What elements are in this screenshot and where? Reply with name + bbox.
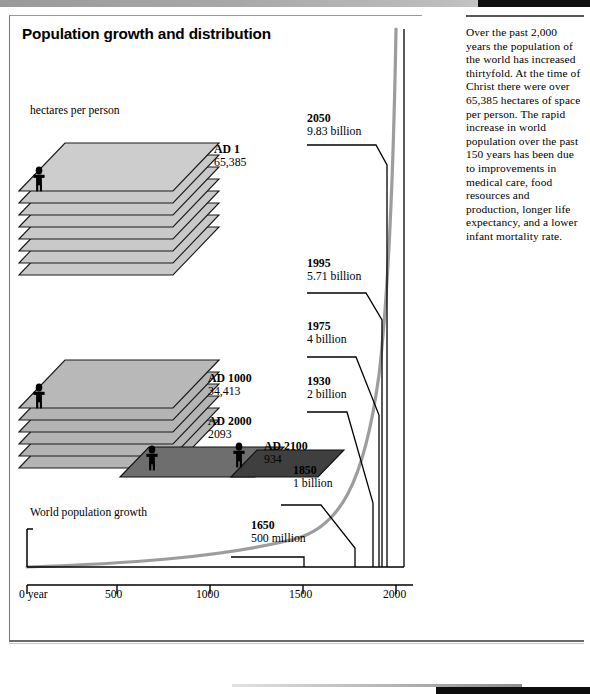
sidebar-top-rule	[466, 15, 584, 17]
panel-bottom-rule-shadow	[9, 643, 584, 644]
x-axis-ruler	[27, 585, 413, 594]
slab-label-ad1000-value: 34,413	[208, 385, 252, 399]
step-label-2050-value: 9.83 billion	[307, 125, 361, 139]
step-label-1975: 1975 4 billion	[307, 320, 347, 347]
x-tick-label-1500: 1500	[289, 588, 312, 601]
step-label-1930-value: 2 billion	[307, 388, 347, 402]
sidebar-paragraph: Over the past 2,000 years the population…	[466, 26, 583, 244]
step-label-2050: 2050 9.83 billion	[307, 112, 361, 139]
slab-label-ad1000: AD 1000 34,413	[208, 372, 252, 399]
slab-label-ad1-value: 65,385	[214, 156, 246, 170]
sidebar-text-column: Over the past 2,000 years the population…	[466, 26, 583, 244]
x-tick-label-2000: 2000	[383, 588, 406, 601]
x-tick-label-1000: 1000	[196, 588, 219, 601]
step-leader-lines	[231, 145, 387, 567]
step-label-1995: 1995 5.71 billion	[307, 257, 361, 284]
scan-artifact-bottom-black	[436, 687, 590, 694]
step-label-1850: 1850 1 billion	[293, 464, 333, 491]
panel-bottom-rule	[9, 640, 584, 642]
slab-label-ad2000: AD 2000 2093	[208, 415, 252, 442]
scan-artifact-top-black-bar	[478, 0, 590, 7]
step-label-1995-value: 5.71 billion	[307, 270, 361, 284]
step-label-1975-value: 4 billion	[307, 333, 347, 347]
slab-label-ad2000-value: 2093	[208, 428, 252, 442]
slab-label-ad1: AD 1 65,385	[214, 143, 246, 170]
x-tick-label-0: 0 year	[19, 588, 48, 601]
slab-stack-ad1	[19, 143, 219, 275]
step-label-1850-value: 1 billion	[293, 477, 333, 491]
chart-axes	[27, 29, 404, 567]
population-growth-curve	[27, 29, 396, 567]
x-tick-label-500: 500	[105, 588, 122, 601]
step-label-1930: 1930 2 billion	[307, 375, 347, 402]
step-label-1650: 1650 500 million	[251, 519, 306, 546]
step-label-1650-value: 500 million	[251, 532, 306, 546]
population-infographic-svg	[9, 15, 421, 640]
